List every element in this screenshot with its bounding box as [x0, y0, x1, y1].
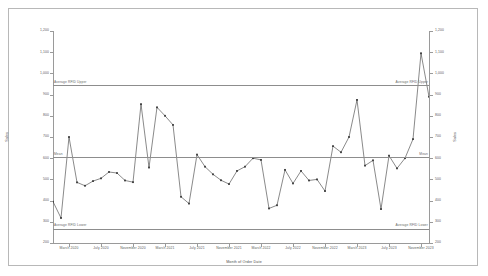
data-point-marker [116, 172, 118, 174]
x-axis-title: Month of Order Date [9, 261, 479, 265]
data-point-marker [428, 96, 429, 98]
x-axis-line [53, 243, 430, 244]
x-axis-tick-label: March 2021 [156, 247, 175, 250]
data-point-marker [108, 171, 110, 173]
data-point-marker [164, 115, 166, 117]
data-point-marker [172, 124, 174, 126]
x-axis-tick-mark [261, 244, 262, 247]
data-point-marker [68, 136, 70, 138]
reference-label-mean-left: Mean [54, 153, 63, 156]
y-axis-left-tick-label: 400 [27, 199, 49, 202]
x-axis-tick-label: July 2023 [381, 247, 396, 250]
x-axis-tick-label: March 2022 [252, 247, 271, 250]
reference-label-average-rfid-lower-right: Average RFID Lower [395, 224, 428, 227]
data-point-marker [292, 183, 294, 185]
data-point-marker [92, 180, 94, 182]
y-axis-left-tick-mark [50, 243, 53, 244]
data-point-marker [84, 185, 86, 187]
data-point-marker [324, 190, 326, 192]
x-axis-tick-mark [421, 244, 422, 247]
y-axis-right-tick-label: 1,100 [435, 51, 444, 54]
data-point-marker [100, 177, 102, 179]
y-axis-left-tick-label: 1,000 [27, 72, 49, 75]
y-axis-right-tick-label: 700 [435, 135, 441, 138]
y-axis-left-tick-label: 500 [27, 178, 49, 181]
data-point-marker [348, 136, 350, 138]
chart-frame: 1,2001,1001,000900800700600500400300200 … [8, 8, 478, 266]
x-axis-tick-mark [389, 244, 390, 247]
data-point-marker [228, 183, 230, 185]
x-axis-tick-labels: March 2020July 2020November 2020March 20… [53, 247, 430, 257]
data-point-marker [212, 173, 214, 175]
y-axis-left-tick-mark [50, 158, 53, 159]
y-axis-left-title: Sales [6, 132, 10, 142]
data-point-marker [124, 180, 126, 182]
data-point-marker [364, 165, 366, 167]
data-point-marker [340, 151, 342, 153]
x-axis-tick-label: March 2020 [60, 247, 79, 250]
series-line [53, 53, 429, 218]
y-axis-left-tick-mark [50, 95, 53, 96]
y-axis-right-tick-label: 300 [435, 220, 441, 223]
x-axis-tick-mark [229, 244, 230, 247]
data-point-marker [420, 52, 422, 54]
y-axis-right-tick-label: 200 [435, 241, 441, 244]
y-axis-right-tick-label: 400 [435, 199, 441, 202]
y-axis-right-tick-mark [430, 243, 433, 244]
y-axis-left-tick-label: 600 [27, 157, 49, 160]
x-axis-tick-label: November 2023 [408, 247, 433, 250]
data-point-marker [412, 138, 414, 140]
x-axis-tick-label: July 2020 [93, 247, 108, 250]
x-axis-tick-label: March 2023 [348, 247, 367, 250]
y-axis-left-tick-mark [50, 222, 53, 223]
x-axis-tick-mark [133, 244, 134, 247]
reference-label-average-rfid-lower-left: Average RFID Lower [54, 224, 87, 227]
data-point-marker [220, 179, 222, 181]
y-axis-right-tick-mark [430, 158, 433, 159]
y-axis-left-tick-label: 1,100 [27, 51, 49, 54]
y-axis-left-tick-labels: 1,2001,1001,000900800700600500400300200 [27, 31, 49, 243]
y-axis-right-tick-label: 600 [435, 157, 441, 160]
reference-label-average-rfid-upper-left: Average RFID Upper [54, 81, 87, 84]
y-axis-left-tick-label: 200 [27, 241, 49, 244]
data-point-marker [188, 203, 190, 205]
y-axis-left-tick-label: 300 [27, 220, 49, 223]
reference-line-average-rfid-lower [53, 229, 429, 230]
x-axis-tick-mark [101, 244, 102, 247]
y-axis-right-tick-mark [430, 52, 433, 53]
y-axis-right-tick-mark [430, 73, 433, 74]
y-axis-right-tick-mark [430, 137, 433, 138]
data-point-marker [204, 166, 206, 168]
data-point-marker [76, 181, 78, 183]
y-axis-right-tick-label: 1,000 [435, 72, 444, 75]
y-axis-right-title: Sales [454, 132, 458, 142]
data-point-marker [276, 204, 278, 206]
data-point-marker [60, 217, 62, 219]
y-axis-right-tick-mark [430, 116, 433, 117]
x-axis-tick-label: July 2022 [285, 247, 300, 250]
data-point-marker [300, 170, 302, 172]
x-axis-tick-label: July 2021 [189, 247, 204, 250]
y-axis-right-tick-label: 900 [435, 93, 441, 96]
y-axis-right-tick-label: 1,200 [435, 29, 444, 32]
y-axis-right-tick-mark [430, 179, 433, 180]
y-axis-right-tick-mark [430, 201, 433, 202]
y-axis-right-tick-labels: 1,2001,1001,000900800700600500400300200 [435, 31, 465, 243]
x-axis-tick-mark [325, 244, 326, 247]
y-axis-left-tick-mark [50, 73, 53, 74]
y-axis-left-tick-label: 800 [27, 114, 49, 117]
data-point-marker [372, 159, 374, 161]
x-axis-tick-mark [197, 244, 198, 247]
y-axis-left-tick-mark [50, 137, 53, 138]
data-point-marker [316, 179, 318, 181]
data-point-marker [332, 145, 334, 147]
data-point-marker [140, 103, 142, 105]
data-point-marker [268, 208, 270, 210]
data-point-marker [284, 169, 286, 171]
y-axis-left-tick-mark [50, 31, 53, 32]
data-point-marker [180, 196, 182, 198]
data-point-marker [356, 99, 358, 101]
y-axis-right-tick-label: 500 [435, 178, 441, 181]
data-point-marker [196, 154, 198, 156]
x-axis-tick-mark [293, 244, 294, 247]
